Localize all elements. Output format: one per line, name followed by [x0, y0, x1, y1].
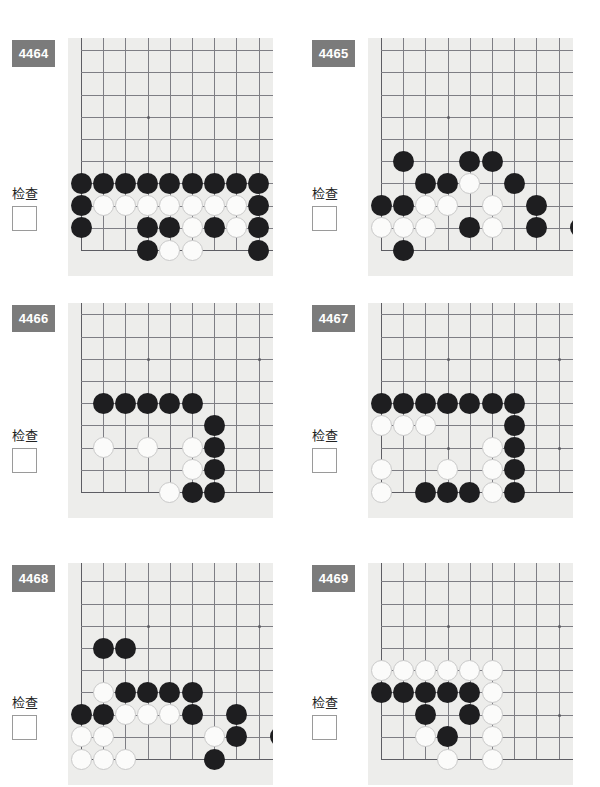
black-stone[interactable]: [159, 217, 180, 238]
white-stone[interactable]: [482, 749, 503, 770]
white-stone[interactable]: [415, 415, 436, 436]
white-stone[interactable]: [482, 660, 503, 681]
white-stone[interactable]: [415, 217, 436, 238]
black-stone[interactable]: [71, 704, 92, 725]
black-stone[interactable]: [393, 240, 414, 261]
white-stone[interactable]: [226, 195, 247, 216]
black-stone[interactable]: [182, 482, 203, 503]
white-stone[interactable]: [226, 217, 247, 238]
white-stone[interactable]: [159, 240, 180, 261]
black-stone[interactable]: [204, 482, 225, 503]
white-stone[interactable]: [482, 437, 503, 458]
black-stone[interactable]: [437, 173, 458, 194]
black-stone[interactable]: [270, 726, 273, 747]
black-stone[interactable]: [482, 151, 503, 172]
white-stone[interactable]: [482, 217, 503, 238]
black-stone[interactable]: [504, 173, 525, 194]
black-stone[interactable]: [137, 393, 158, 414]
white-stone[interactable]: [137, 195, 158, 216]
black-stone[interactable]: [415, 173, 436, 194]
white-stone[interactable]: [371, 217, 392, 238]
black-stone[interactable]: [137, 173, 158, 194]
white-stone[interactable]: [204, 195, 225, 216]
black-stone[interactable]: [459, 482, 480, 503]
white-stone[interactable]: [71, 726, 92, 747]
white-stone[interactable]: [415, 195, 436, 216]
black-stone[interactable]: [504, 415, 525, 436]
black-stone[interactable]: [182, 704, 203, 725]
check-checkbox[interactable]: [312, 715, 337, 740]
white-stone[interactable]: [393, 415, 414, 436]
check-checkbox[interactable]: [12, 448, 37, 473]
black-stone[interactable]: [415, 482, 436, 503]
black-stone[interactable]: [204, 415, 225, 436]
black-stone[interactable]: [459, 393, 480, 414]
black-stone[interactable]: [415, 393, 436, 414]
white-stone[interactable]: [415, 660, 436, 681]
black-stone[interactable]: [71, 173, 92, 194]
white-stone[interactable]: [93, 437, 114, 458]
black-stone[interactable]: [248, 195, 269, 216]
black-stone[interactable]: [182, 173, 203, 194]
black-stone[interactable]: [115, 682, 136, 703]
go-board[interactable]: [68, 303, 273, 518]
black-stone[interactable]: [459, 682, 480, 703]
black-stone[interactable]: [137, 682, 158, 703]
black-stone[interactable]: [371, 682, 392, 703]
black-stone[interactable]: [371, 393, 392, 414]
black-stone[interactable]: [159, 682, 180, 703]
check-checkbox[interactable]: [312, 448, 337, 473]
black-stone[interactable]: [204, 459, 225, 480]
black-stone[interactable]: [437, 482, 458, 503]
white-stone[interactable]: [93, 749, 114, 770]
black-stone[interactable]: [93, 704, 114, 725]
black-stone[interactable]: [137, 217, 158, 238]
black-stone[interactable]: [526, 195, 547, 216]
go-board[interactable]: [368, 38, 573, 276]
black-stone[interactable]: [371, 195, 392, 216]
black-stone[interactable]: [393, 682, 414, 703]
white-stone[interactable]: [182, 437, 203, 458]
white-stone[interactable]: [393, 660, 414, 681]
black-stone[interactable]: [226, 173, 247, 194]
go-board[interactable]: [368, 563, 573, 785]
black-stone[interactable]: [226, 704, 247, 725]
white-stone[interactable]: [437, 660, 458, 681]
black-stone[interactable]: [93, 393, 114, 414]
go-board[interactable]: [368, 303, 573, 518]
black-stone[interactable]: [437, 393, 458, 414]
white-stone[interactable]: [482, 682, 503, 703]
white-stone[interactable]: [182, 195, 203, 216]
white-stone[interactable]: [393, 217, 414, 238]
white-stone[interactable]: [93, 682, 114, 703]
black-stone[interactable]: [115, 638, 136, 659]
black-stone[interactable]: [526, 217, 547, 238]
white-stone[interactable]: [371, 482, 392, 503]
white-stone[interactable]: [459, 660, 480, 681]
white-stone[interactable]: [371, 459, 392, 480]
black-stone[interactable]: [459, 704, 480, 725]
white-stone[interactable]: [459, 173, 480, 194]
black-stone[interactable]: [415, 704, 436, 725]
white-stone[interactable]: [482, 704, 503, 725]
white-stone[interactable]: [159, 704, 180, 725]
white-stone[interactable]: [115, 195, 136, 216]
black-stone[interactable]: [71, 217, 92, 238]
white-stone[interactable]: [182, 240, 203, 261]
white-stone[interactable]: [137, 704, 158, 725]
black-stone[interactable]: [226, 726, 247, 747]
white-stone[interactable]: [371, 415, 392, 436]
check-checkbox[interactable]: [12, 715, 37, 740]
white-stone[interactable]: [437, 749, 458, 770]
white-stone[interactable]: [482, 195, 503, 216]
white-stone[interactable]: [115, 704, 136, 725]
black-stone[interactable]: [93, 173, 114, 194]
black-stone[interactable]: [437, 682, 458, 703]
white-stone[interactable]: [482, 459, 503, 480]
check-checkbox[interactable]: [312, 206, 337, 231]
black-stone[interactable]: [459, 217, 480, 238]
white-stone[interactable]: [371, 660, 392, 681]
white-stone[interactable]: [182, 459, 203, 480]
black-stone[interactable]: [115, 393, 136, 414]
black-stone[interactable]: [393, 393, 414, 414]
